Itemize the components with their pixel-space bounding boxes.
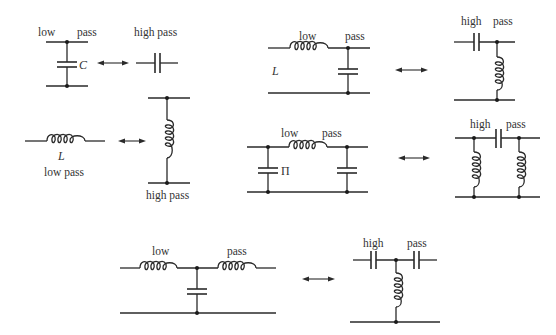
node-dot: [65, 40, 69, 44]
double-arrow-icon: [395, 68, 428, 73]
node-dot: [517, 136, 521, 140]
node-dot: [345, 145, 349, 149]
double-arrow-icon: [398, 156, 430, 161]
label-low-pass: low pass: [44, 166, 84, 179]
label-pass: pass: [322, 127, 342, 140]
label-pass: pass: [493, 15, 513, 28]
node-dot: [65, 84, 69, 88]
inductor-icon: [47, 134, 85, 142]
capacitor-icon: [496, 129, 501, 148]
t-section-high-pass: high pass: [350, 237, 440, 324]
node-dot: [472, 136, 476, 140]
l-section-low-pass: low pass L: [268, 30, 370, 95]
node-dot: [195, 266, 199, 270]
node-dot: [165, 181, 169, 185]
l-section-high-pass: high pass: [454, 15, 515, 102]
inductor-icon: [517, 152, 525, 187]
shunt-capacitor-low-pass: low pass C: [38, 26, 97, 88]
node-dot: [346, 46, 350, 50]
node-dot: [346, 91, 350, 95]
component-symbol-L: L: [57, 149, 65, 163]
label-pass: pass: [506, 118, 526, 131]
label-low: low: [38, 26, 56, 38]
label-pass: pass: [77, 26, 97, 39]
capacitor-icon: [338, 69, 358, 74]
inductor-icon: [290, 41, 328, 49]
component-symbol-C: C: [79, 58, 88, 72]
capacitor-icon: [371, 251, 376, 269]
node-dot: [266, 145, 270, 149]
inductor-icon: [218, 261, 256, 269]
double-arrow-icon: [97, 61, 129, 66]
capacitor-icon: [187, 289, 207, 294]
inductor-icon: [289, 140, 327, 148]
node-dot: [394, 320, 398, 324]
capacitor-icon: [474, 33, 479, 51]
capacitor-icon: [258, 168, 278, 173]
inductor-icon: [394, 273, 402, 307]
inductor-icon: [140, 261, 177, 269]
double-arrow-icon: [118, 139, 146, 144]
capacitor-icon: [337, 168, 357, 173]
component-symbol-L: L: [271, 64, 279, 78]
inductor-icon: [165, 120, 173, 158]
capacitor-icon: [155, 53, 160, 73]
capacitor-icon: [414, 251, 419, 269]
label-high-pass: high pass: [134, 26, 178, 39]
pi-section-low-pass: low pass Π: [247, 127, 368, 194]
node-dot: [495, 98, 499, 102]
label-high-pass: high pass: [146, 189, 190, 202]
filter-transform-diagram: low pass C high pass L low pass: [0, 0, 556, 335]
shunt-inductor-high-pass: high pass: [146, 96, 190, 202]
label-high: high: [461, 15, 482, 28]
pi-section-high-pass: high pass: [455, 118, 540, 199]
node-dot: [165, 96, 169, 100]
inductor-icon: [495, 57, 503, 90]
label-pass: pass: [227, 245, 247, 258]
label-low: low: [152, 245, 170, 257]
series-inductor-low-pass: L low pass: [25, 134, 105, 179]
label-high: high: [470, 118, 491, 131]
t-section-low-pass: low pass: [120, 245, 276, 315]
label-high: high: [363, 237, 384, 250]
double-arrow-icon: [302, 277, 335, 282]
node-dot: [394, 258, 398, 262]
node-dot: [195, 311, 199, 315]
label-pass: pass: [407, 237, 427, 250]
node-dot: [345, 190, 349, 194]
node-dot: [517, 195, 521, 199]
component-symbol-pi: Π: [281, 164, 290, 178]
label-low: low: [281, 127, 299, 139]
node-dot: [495, 40, 499, 44]
node-dot: [472, 195, 476, 199]
label-pass: pass: [345, 30, 365, 43]
label-low: low: [299, 30, 317, 42]
node-dot: [266, 190, 270, 194]
inductor-icon: [472, 152, 480, 187]
capacitor-icon: [57, 62, 77, 67]
series-capacitor-high-pass: high pass: [134, 26, 178, 73]
